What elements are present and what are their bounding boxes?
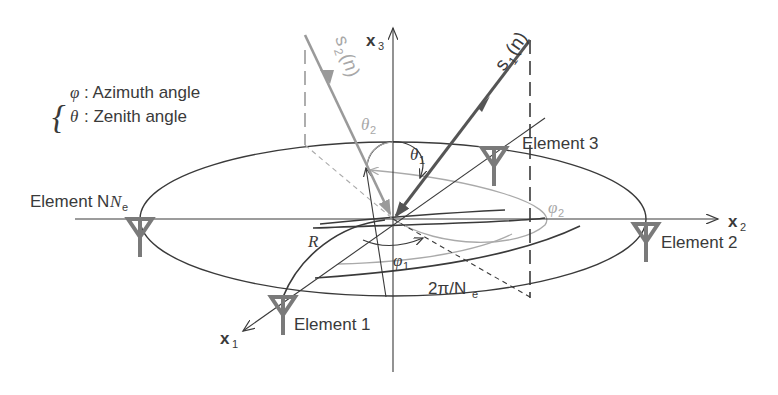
theta2-arc — [367, 142, 393, 166]
radius-label: R — [307, 232, 319, 251]
element-ne-label: Element N — [30, 192, 109, 211]
antenna-element-1 — [271, 297, 295, 335]
legend-phi-symbol: φ — [70, 83, 79, 102]
x1-label: x — [220, 329, 230, 348]
svg-text:(n): (n) — [337, 51, 364, 80]
legend: { φ : Azimuth angle θ : Zenith angle — [52, 83, 200, 135]
phi2-arc-lower — [338, 234, 512, 264]
phi2-arc — [370, 170, 547, 242]
s1-label: s 1 (n) — [490, 28, 535, 77]
svg-text:(n): (n) — [501, 28, 532, 59]
theta1-sub: 1 — [419, 154, 425, 166]
x2-sub: 2 — [740, 221, 746, 233]
legend-theta-symbol: θ — [70, 107, 78, 126]
radius-arc — [283, 220, 385, 297]
x3-label: x — [366, 31, 376, 50]
legend-theta-label: : Zenith angle — [84, 107, 187, 126]
x3-sub: 3 — [378, 40, 384, 52]
spacing-sub: e — [472, 288, 478, 300]
antenna-element-3 — [482, 148, 506, 186]
legend-brace: { — [52, 98, 66, 135]
element-2-label: Element 2 — [661, 233, 738, 252]
element-ne-sub: e — [122, 201, 128, 213]
phi2-label: φ — [548, 198, 557, 217]
phi2-sub: 2 — [558, 207, 564, 219]
svg-text:s: s — [331, 33, 354, 49]
theta2-label: θ — [361, 115, 369, 134]
theta2-sub: 2 — [370, 124, 376, 136]
element-1-label: Element 1 — [294, 315, 371, 334]
theta1-label: θ — [410, 145, 418, 164]
legend-phi-label: : Azimuth angle — [84, 83, 200, 102]
element-ne-n: N — [109, 192, 123, 211]
phi1-label: φ — [393, 251, 402, 270]
s2-projection — [305, 145, 393, 219]
x2-label: x — [728, 212, 738, 231]
array-geometry-diagram: { φ : Azimuth angle θ : Zenith angle — [0, 0, 778, 395]
antenna-element-2 — [634, 224, 658, 262]
x1-sub: 1 — [232, 338, 238, 350]
element-3-label: Element 3 — [522, 134, 599, 153]
phi1-sub: 1 — [403, 260, 409, 272]
spacing-label: 2π/N — [428, 279, 466, 298]
